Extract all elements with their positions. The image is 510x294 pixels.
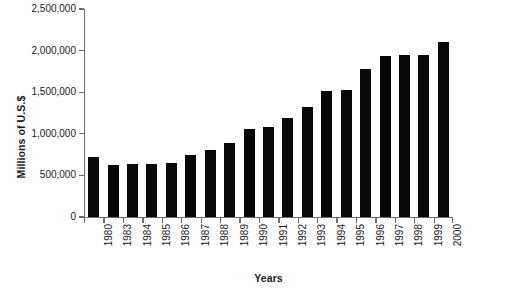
bar-chart: Millions of U.S.$ 0500,0001,000,0001,500…	[0, 0, 510, 294]
bar	[341, 90, 352, 217]
x-axis-tick-mark	[452, 218, 453, 223]
x-axis-tick-mark	[162, 218, 163, 223]
x-axis-tick-label: 1999	[433, 224, 444, 268]
y-axis-tick-mark	[79, 50, 84, 51]
y-axis-tick-label: 500,000	[14, 170, 76, 180]
bar	[88, 157, 99, 217]
y-axis-tick-label: 2,500,000	[14, 4, 76, 14]
x-axis-tick-label: 2000	[452, 224, 463, 268]
x-axis-tick-mark	[336, 218, 337, 223]
x-axis-tick-label: 1989	[239, 224, 250, 268]
bar	[166, 163, 177, 217]
bar	[380, 56, 391, 217]
bar	[399, 55, 410, 217]
bar	[127, 164, 138, 217]
x-axis-tick-mark	[201, 218, 202, 223]
bar	[282, 118, 293, 217]
x-axis-tick-label: 1990	[258, 224, 269, 268]
y-axis-tick-label: 2,000,000	[14, 46, 76, 56]
x-axis-tick-label: 1984	[142, 224, 153, 268]
x-axis-tick-label: 1985	[161, 224, 172, 268]
bar	[244, 129, 255, 217]
x-axis-tick-mark	[298, 218, 299, 223]
y-axis-tick-label: 1,500,000	[14, 87, 76, 97]
bar	[418, 55, 429, 217]
bar	[108, 165, 119, 217]
bar	[263, 127, 274, 217]
y-axis-tick-label: 1,000,000	[14, 129, 76, 139]
y-axis-tick-mark	[79, 8, 84, 9]
bar	[224, 143, 235, 217]
x-axis-tick-mark	[123, 218, 124, 223]
bar	[146, 164, 157, 217]
x-axis-title: Years	[84, 272, 453, 284]
x-axis-tick-label: 1980	[103, 224, 114, 268]
y-axis-tick-mark	[79, 175, 84, 176]
x-axis-tick-mark	[220, 218, 221, 223]
x-axis-tick-mark	[239, 218, 240, 223]
x-axis-tick-mark	[142, 218, 143, 223]
plot-area	[84, 9, 453, 217]
bar	[185, 155, 196, 217]
x-axis-tick-label: 1988	[219, 224, 230, 268]
x-axis-tick-label: 1998	[413, 224, 424, 268]
bar	[360, 69, 371, 217]
y-axis-tick-labels: 0500,0001,000,0001,500,0002,000,0002,500…	[14, 0, 76, 294]
x-axis-tick-label: 1993	[316, 224, 327, 268]
x-axis-tick-mark	[434, 218, 435, 223]
x-axis-tick-mark	[356, 218, 357, 223]
x-axis-tick-label: 1986	[180, 224, 191, 268]
x-axis-tick-label: 1983	[122, 224, 133, 268]
y-axis-tick-mark	[79, 92, 84, 93]
x-axis-tick-mark	[375, 218, 376, 223]
bar	[438, 42, 449, 217]
y-axis-tick-label: 0	[14, 212, 76, 222]
x-axis-tick-mark	[395, 218, 396, 223]
x-axis-tick-label: 1992	[297, 224, 308, 268]
bar	[205, 150, 216, 217]
x-axis-tick-mark	[414, 218, 415, 223]
x-axis-tick-label: 1995	[355, 224, 366, 268]
x-axis-tick-mark	[317, 218, 318, 223]
x-axis-tick-label: 1987	[200, 224, 211, 268]
x-axis-tick-label: 1997	[394, 224, 405, 268]
x-axis-tick-label: 1994	[336, 224, 347, 268]
x-axis-tick-mark	[103, 218, 104, 223]
y-axis-tick-mark	[79, 133, 84, 134]
x-axis-tick-mark	[84, 218, 85, 223]
x-axis-tick-mark	[278, 218, 279, 223]
x-axis-tick-label: 1991	[278, 224, 289, 268]
x-axis-tick-label: 1996	[375, 224, 386, 268]
x-axis-tick-mark	[181, 218, 182, 223]
bar	[302, 107, 313, 217]
x-axis-tick-mark	[259, 218, 260, 223]
bar	[321, 91, 332, 217]
